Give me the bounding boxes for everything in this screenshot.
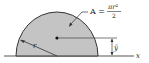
- semicircle-area: [16, 12, 98, 56]
- x-axis-label: x: [136, 52, 140, 60]
- area-label-lhs: A =: [89, 7, 105, 16]
- centroid-label: ȳ: [113, 44, 119, 52]
- centroid-point: [55, 36, 58, 39]
- area-label-numerator: πr²: [107, 3, 118, 11]
- arrow-up-icon: [111, 39, 114, 43]
- arrow-down-icon: [111, 52, 114, 56]
- area-label-denominator: 2: [112, 12, 116, 19]
- semicircle-centroid-diagram: A = πr² 2 r ȳ x: [0, 0, 149, 63]
